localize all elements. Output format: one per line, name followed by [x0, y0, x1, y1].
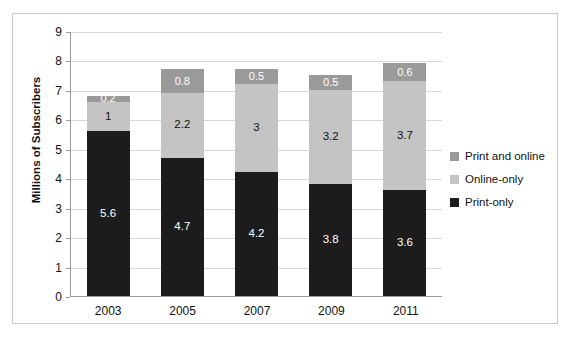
bar-segment[interactable]: 1: [87, 102, 130, 131]
x-tick-label: 2009: [294, 304, 368, 318]
bar-group-2005[interactable]: 4.72.20.8: [145, 32, 219, 296]
legend-item[interactable]: Print-only: [450, 196, 545, 208]
x-tick-label: 2011: [369, 304, 443, 318]
bar-segment[interactable]: 3.6: [383, 190, 426, 296]
y-tick-label: 3: [55, 202, 62, 216]
y-tick-label: 1: [55, 261, 62, 275]
bar-group-2007[interactable]: 4.230.5: [219, 32, 293, 296]
bar-segment[interactable]: 3: [235, 84, 278, 172]
y-tick-mark: [66, 297, 70, 298]
chart-legend: Print and onlineOnline-onlyPrint-only: [450, 150, 545, 208]
x-axis-labels: 20032005200720092011: [71, 304, 443, 318]
bar-stack[interactable]: 3.83.20.5: [309, 75, 352, 296]
bar-group-2011[interactable]: 3.63.70.6: [368, 32, 442, 296]
bar-segment[interactable]: 0.5: [235, 69, 278, 84]
legend-item[interactable]: Online-only: [450, 173, 545, 185]
x-tick-label: 2005: [145, 304, 219, 318]
chart-container: Millions of Subscribers 0123456789 5.610…: [12, 13, 558, 324]
legend-swatch-icon: [450, 198, 459, 207]
bar-segment[interactable]: 5.6: [87, 131, 130, 296]
y-axis-title: Millions of Subscribers: [30, 55, 42, 225]
bar-segment[interactable]: 4.2: [235, 172, 278, 296]
legend-swatch-icon: [450, 152, 459, 161]
bar-segment[interactable]: 0.5: [309, 75, 352, 90]
bar-segment[interactable]: 3.8: [309, 184, 352, 296]
y-tick-label: 5: [55, 143, 62, 157]
bar-segment[interactable]: 3.2: [309, 90, 352, 184]
y-tick-label: 4: [55, 172, 62, 186]
x-tick-label: 2003: [71, 304, 145, 318]
bar-stack[interactable]: 4.72.20.8: [161, 69, 204, 296]
y-tick-label: 8: [55, 54, 62, 68]
bar-stack[interactable]: 3.63.70.6: [383, 63, 426, 296]
y-tick-label: 6: [55, 113, 62, 127]
legend-label: Online-only: [465, 173, 523, 185]
bar-stack[interactable]: 5.610.2: [87, 96, 130, 296]
bar-segment[interactable]: 2.2: [161, 93, 204, 158]
bar-group-2009[interactable]: 3.83.20.5: [294, 32, 368, 296]
plot-area: 0123456789 5.610.24.72.20.84.230.53.83.2…: [70, 32, 442, 297]
legend-label: Print-only: [465, 196, 514, 208]
x-axis-line: [70, 296, 442, 297]
bar-stack[interactable]: 4.230.5: [235, 69, 278, 296]
y-tick-label: 0: [55, 290, 62, 304]
bar-segment[interactable]: 0.6: [383, 63, 426, 81]
y-tick-label: 2: [55, 231, 62, 245]
y-tick-label: 9: [55, 25, 62, 39]
bar-segment[interactable]: 0.8: [161, 69, 204, 93]
x-tick-label: 2007: [220, 304, 294, 318]
bar-segment[interactable]: 4.7: [161, 158, 204, 296]
bar-group-2003[interactable]: 5.610.2: [71, 32, 145, 296]
legend-label: Print and online: [465, 150, 545, 162]
bar-series-group: 5.610.24.72.20.84.230.53.83.20.53.63.70.…: [71, 32, 442, 296]
bar-segment[interactable]: 3.7: [383, 81, 426, 190]
legend-swatch-icon: [450, 175, 459, 184]
legend-item[interactable]: Print and online: [450, 150, 545, 162]
y-tick-label: 7: [55, 84, 62, 98]
